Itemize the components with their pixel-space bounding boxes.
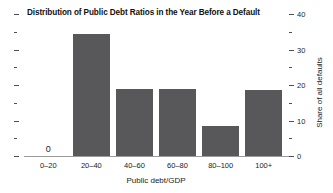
y-axis-title: Share of all defaults bbox=[315, 45, 324, 141]
x-axis-line bbox=[24, 156, 289, 157]
bar-80-100[interactable] bbox=[202, 126, 239, 156]
bar-value-label-0-20: 0 bbox=[30, 144, 67, 154]
bar-100-plus[interactable] bbox=[245, 90, 282, 156]
y-tick-left-40 bbox=[14, 14, 19, 15]
x-category-60-80: 60–80 bbox=[159, 161, 196, 170]
y-tick-right-minor-35 bbox=[289, 32, 292, 33]
x-category-20-40: 20–40 bbox=[73, 161, 110, 170]
y-tick-right-minor-5 bbox=[289, 138, 292, 139]
y-tick-left-minor-35 bbox=[14, 32, 17, 33]
y-tick-left-minor-15 bbox=[14, 103, 17, 104]
y-tick-left-minor-25 bbox=[14, 67, 17, 68]
y-tick-left-minor-5 bbox=[14, 138, 17, 139]
bar-slot-60-80 bbox=[159, 14, 196, 156]
bar-slot-40-60 bbox=[116, 14, 153, 156]
y-tick-label-30: 30 bbox=[297, 45, 305, 54]
y-tick-right-minor-15 bbox=[289, 103, 292, 104]
x-category-100-plus: 100+ bbox=[245, 161, 282, 170]
y-tick-right-minor-25 bbox=[289, 67, 292, 68]
x-axis-categories: 0–20 20–40 40–60 60–80 80–100 100+ bbox=[30, 161, 282, 170]
plot-area: 0 bbox=[30, 14, 282, 156]
bar-slot-100-plus bbox=[245, 14, 282, 156]
y-tick-left-10 bbox=[14, 121, 19, 122]
y-tick-right-20 bbox=[289, 85, 294, 86]
bar-slot-20-40 bbox=[73, 14, 110, 156]
bar-slot-80-100 bbox=[202, 14, 239, 156]
chart-figure: Distribution of Public Debt Ratios in th… bbox=[0, 0, 333, 193]
y-tick-right-30 bbox=[289, 50, 294, 51]
bar-60-80[interactable] bbox=[159, 89, 196, 156]
y-tick-left-0 bbox=[14, 156, 19, 157]
y-tick-label-20: 20 bbox=[297, 81, 305, 90]
bar-slot-0-20: 0 bbox=[30, 14, 67, 156]
y-tick-left-20 bbox=[14, 85, 19, 86]
y-tick-right-10 bbox=[289, 121, 294, 122]
bar-20-40[interactable] bbox=[73, 34, 110, 156]
x-category-40-60: 40–60 bbox=[116, 161, 153, 170]
bar-40-60[interactable] bbox=[116, 89, 153, 156]
y-tick-label-40: 40 bbox=[297, 10, 305, 19]
y-tick-left-30 bbox=[14, 50, 19, 51]
y-tick-right-0 bbox=[289, 156, 294, 157]
bar-series: 0 bbox=[30, 14, 282, 156]
x-category-80-100: 80–100 bbox=[202, 161, 239, 170]
y-tick-right-40 bbox=[289, 14, 294, 15]
x-category-0-20: 0–20 bbox=[30, 161, 67, 170]
y-tick-label-10: 10 bbox=[297, 116, 305, 125]
x-axis-title: Public debt/GDP bbox=[30, 176, 282, 185]
y-tick-label-0: 0 bbox=[297, 152, 301, 161]
